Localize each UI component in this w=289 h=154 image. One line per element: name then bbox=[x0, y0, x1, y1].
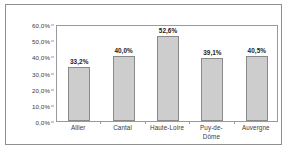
y-tick-label: 50,0% bbox=[32, 38, 50, 45]
bar-value-label: 39,1% bbox=[203, 49, 221, 56]
bar-slot: 52,6% bbox=[157, 24, 179, 121]
y-tick-mark bbox=[51, 89, 54, 90]
x-category-label: Cantal bbox=[100, 124, 144, 133]
y-tick-mark bbox=[51, 25, 54, 26]
bar-slot: 33,2% bbox=[68, 24, 90, 121]
y-tick-label: 30,0% bbox=[32, 70, 50, 77]
bar-value-label: 33,2% bbox=[70, 58, 88, 65]
bar-value-label: 40,0% bbox=[114, 47, 132, 54]
plot-area: 33,2%40,0%52,6%39,1%40,5% bbox=[56, 25, 278, 122]
x-category-label-line: Allier bbox=[56, 124, 100, 133]
x-category-label-line: Dôme bbox=[189, 133, 233, 142]
bar-value-label: 40,5% bbox=[248, 47, 266, 54]
bar[interactable] bbox=[246, 56, 268, 121]
figure-frame: 60,0%50,0%40,0%30,0%20,0%10,0%0,0% 33,2%… bbox=[5, 4, 282, 145]
y-tick-mark bbox=[51, 73, 54, 74]
bar-slot: 39,1% bbox=[201, 24, 223, 121]
bar-value-label: 52,6% bbox=[159, 27, 177, 34]
y-tick-mark bbox=[51, 41, 54, 42]
x-category-label: Puy-de-Dôme bbox=[189, 124, 233, 141]
bar[interactable] bbox=[201, 58, 223, 121]
y-tick-label: 20,0% bbox=[32, 86, 50, 93]
x-category-label: Allier bbox=[56, 124, 100, 133]
bar[interactable] bbox=[157, 36, 179, 121]
x-category-label: Auvergne bbox=[234, 124, 278, 133]
x-category-label: Haute-Loire bbox=[145, 124, 189, 133]
x-axis: AllierCantalHaute-LoirePuy-de-DômeAuverg… bbox=[56, 124, 278, 150]
y-tick-label: 40,0% bbox=[32, 54, 50, 61]
y-tick-label: 10,0% bbox=[32, 102, 50, 109]
x-category-label-line: Auvergne bbox=[234, 124, 278, 133]
bar-chart-figure: 60,0%50,0%40,0%30,0%20,0%10,0%0,0% 33,2%… bbox=[0, 0, 289, 154]
bar-slot: 40,5% bbox=[246, 24, 268, 121]
y-tick-mark bbox=[51, 105, 54, 106]
y-tick-label: 0,0% bbox=[35, 119, 50, 126]
x-category-label-line: Haute-Loire bbox=[145, 124, 189, 133]
x-category-label-line: Cantal bbox=[100, 124, 144, 133]
y-tick-mark bbox=[51, 57, 54, 58]
x-category-label-line: Puy-de- bbox=[189, 124, 233, 133]
bar-slot: 40,0% bbox=[113, 24, 135, 121]
bar[interactable] bbox=[68, 67, 90, 121]
y-tick-mark bbox=[51, 122, 54, 123]
y-tick-label: 60,0% bbox=[32, 22, 50, 29]
y-axis: 60,0%50,0%40,0%30,0%20,0%10,0%0,0% bbox=[14, 25, 54, 122]
bar[interactable] bbox=[113, 56, 135, 121]
